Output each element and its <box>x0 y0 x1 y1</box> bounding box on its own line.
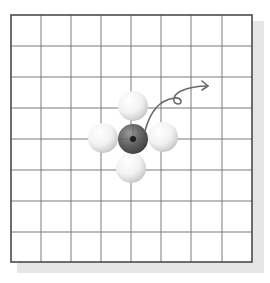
grid-diagram <box>0 0 270 283</box>
white-sphere-top-icon <box>118 91 148 121</box>
white-sphere-left-icon <box>88 123 118 153</box>
white-sphere-bottom-icon <box>116 153 146 183</box>
center-dot <box>130 136 136 142</box>
white-sphere-right-icon <box>148 122 178 152</box>
